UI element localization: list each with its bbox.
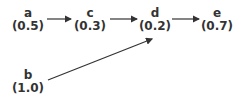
node-a-value: (0.5): [6, 20, 50, 33]
node-e-value: (0.7): [195, 20, 239, 33]
node-d-value: (0.2): [133, 20, 177, 33]
edge-b-d: [48, 39, 152, 80]
node-b: b (1.0): [6, 69, 50, 95]
node-b-value: (1.0): [6, 82, 50, 95]
node-d: d (0.2): [133, 7, 177, 33]
node-a: a (0.5): [6, 7, 50, 33]
node-e: e (0.7): [195, 7, 239, 33]
node-c-value: (0.3): [68, 20, 112, 33]
node-c: c (0.3): [68, 7, 112, 33]
